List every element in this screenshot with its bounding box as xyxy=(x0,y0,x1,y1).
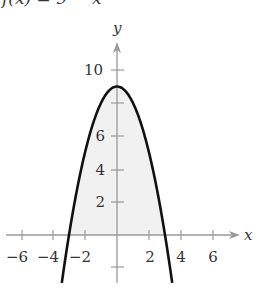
x-axis-label: x xyxy=(244,226,253,244)
chart-title: f(x) = 9 − x² xyxy=(0,0,109,8)
x-tick-label: 2 xyxy=(145,248,155,266)
x-tick-label: −6 xyxy=(6,248,28,266)
x-tick-label: −2 xyxy=(69,248,91,266)
y-tick-label: 10 xyxy=(84,61,103,79)
y-tick-label: 4 xyxy=(95,161,105,179)
x-tick-label: 4 xyxy=(176,248,186,266)
y-axis-label: y xyxy=(112,19,122,37)
x-tick-label: −4 xyxy=(37,248,59,266)
x-tick-labels: −6 −4 −2 2 4 6 xyxy=(6,248,218,266)
parabola-chart: f(x) = 9 − x² x y −6 −4 −2 2 4 6 10 6 4 xyxy=(0,0,262,289)
x-tick-label: 6 xyxy=(208,248,218,266)
y-tick-label: 6 xyxy=(95,127,105,145)
y-tick-label: 2 xyxy=(95,193,105,211)
